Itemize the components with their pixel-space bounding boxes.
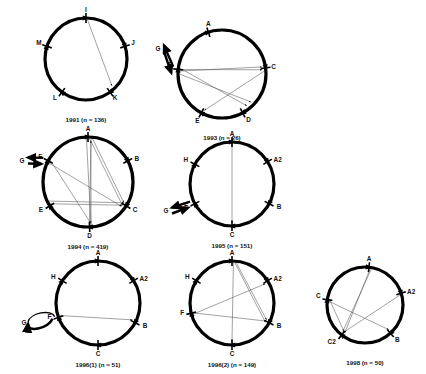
node-label: C xyxy=(271,63,276,70)
node-label: F xyxy=(180,309,184,316)
node-label: H xyxy=(51,273,56,280)
panel-caption: 1998 (n = 50) xyxy=(346,359,383,366)
node-label: C xyxy=(133,206,138,213)
recombination-chord xyxy=(193,313,266,321)
node-label: A xyxy=(230,249,235,256)
panel-1996-2: AA2BCFH1996(2) (n = 149) xyxy=(180,249,282,368)
external-node-label: G xyxy=(22,319,27,326)
node-label: B xyxy=(134,155,139,162)
recombination-chord xyxy=(180,74,252,102)
node-label: D xyxy=(87,232,92,239)
panel-1995: AA2BCFHG1995 (n = 151) xyxy=(164,130,283,249)
recombination-chord xyxy=(180,67,262,71)
node-label: A xyxy=(96,249,101,256)
node-label: C2 xyxy=(328,338,337,345)
node-label: C xyxy=(230,350,235,357)
node-label: B xyxy=(277,322,282,329)
node-label: H xyxy=(185,273,190,280)
node-label: A xyxy=(230,130,235,137)
genome-circle xyxy=(45,18,127,100)
recombination-chord xyxy=(87,20,112,86)
external-arrow-in xyxy=(172,208,188,214)
panel-1993: ACDEFG1993 (n = 26) xyxy=(156,20,277,141)
node-label: M xyxy=(36,39,41,46)
node-label: E xyxy=(195,117,200,124)
node-label: K xyxy=(113,94,118,101)
external-node-label: G xyxy=(156,45,161,52)
figure-container: IJKLM1991 (n = 136)ACDEFG1993 (n = 26)AB… xyxy=(0,0,426,374)
recombination-chord xyxy=(193,284,265,314)
recombination-chord xyxy=(49,163,122,206)
node-label: C xyxy=(96,350,101,357)
panels-layer: IJKLM1991 (n = 136)ACDEFG1993 (n = 26)AB… xyxy=(20,6,416,368)
node-label: C xyxy=(230,231,235,238)
node-label: L xyxy=(53,94,57,101)
external-node-label: G xyxy=(20,157,25,164)
recombination-chord xyxy=(232,263,233,342)
genome-circle xyxy=(178,30,266,118)
panel-caption: 1996(2) (n = 149) xyxy=(208,361,256,368)
panel-1991: IJKLM1991 (n = 136) xyxy=(36,6,135,123)
node-label: A2 xyxy=(274,275,283,282)
external-node-label: G xyxy=(164,207,169,214)
node-label: B xyxy=(143,322,148,329)
node-label: A2 xyxy=(407,288,416,295)
node-label: H xyxy=(184,156,189,163)
node-label: C xyxy=(316,292,321,299)
node-label: A xyxy=(206,20,211,27)
recombination-chord xyxy=(50,204,122,205)
panel-caption: 1993 (n = 26) xyxy=(203,134,240,141)
panel-caption: 1995 (n = 151) xyxy=(212,242,253,249)
node-label: A2 xyxy=(274,156,283,163)
node-label: J xyxy=(131,39,135,46)
panel-1998: AA2BC2C1998 (n = 50) xyxy=(316,255,416,366)
genome-circle xyxy=(56,261,140,345)
genome-circle xyxy=(43,137,133,227)
node-label: I xyxy=(85,6,87,13)
panel-1994: ABCDEFG1994 (n = 419) xyxy=(20,125,140,250)
panel-caption: 1994 (n = 419) xyxy=(68,243,109,250)
recombination-chord xyxy=(236,263,266,320)
recombination-chord xyxy=(329,299,345,333)
node-label: A xyxy=(86,125,91,132)
recombination-chord xyxy=(59,316,132,320)
node-label: D xyxy=(246,116,251,123)
panel-1996-1: AA2BCFHG1996(1) (n = 51) xyxy=(22,249,149,368)
panel-caption: 1991 (n = 136) xyxy=(66,116,107,123)
circular-diagrams-svg: IJKLM1991 (n = 136)ACDEFG1993 (n = 26)AB… xyxy=(0,0,426,374)
node-label: B xyxy=(395,336,400,343)
recombination-chord xyxy=(329,301,389,330)
node-label: A xyxy=(367,255,372,262)
node-label: E xyxy=(39,206,44,213)
node-label: A2 xyxy=(140,275,149,282)
recombination-chord xyxy=(180,68,247,106)
panel-caption: 1996(1) (n = 51) xyxy=(76,361,121,368)
node-label: B xyxy=(277,203,282,210)
recombination-chord xyxy=(343,269,372,331)
